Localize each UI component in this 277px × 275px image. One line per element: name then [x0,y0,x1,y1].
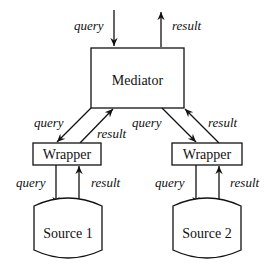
mediator-node: Mediator [91,48,184,108]
edge-w2-med-result: result [185,109,238,143]
edge-out-result: result [161,12,202,47]
edge-w1-med-result: result [80,109,127,143]
node-label: Mediator [112,73,164,88]
edge-label: query [132,115,162,130]
edge-label: result [97,126,127,141]
edge-label: result [230,175,260,190]
source-1-node: Source 1 [34,198,102,258]
node-label: Source 1 [43,226,92,241]
source-2-node: Source 2 [173,198,241,258]
edge-label: query [155,175,185,190]
wrapper-2-node: Wrapper [172,143,242,165]
mediator-architecture-diagram: query result Mediator query result query… [0,0,277,275]
edge-label: result [208,115,238,130]
node-label: Source 2 [182,226,231,241]
edge-label: result [91,175,121,190]
edge-label: query [74,18,104,33]
edge-w1-s1-query: query [16,165,56,205]
edge-in-query: query [74,10,114,46]
edge-label: result [172,18,202,33]
wrapper-1-node: Wrapper [33,143,101,165]
edge-med-w1-query: query [34,108,91,142]
edge-s1-w1-result: result [79,166,121,205]
edge-s2-w2-result: result [219,166,260,205]
edge-label: query [16,175,46,190]
node-label: Wrapper [183,147,232,162]
node-label: Wrapper [43,147,92,162]
edge-label: query [34,115,64,130]
edge-w2-s2-query: query [155,165,196,205]
edge-med-w2-query: query [132,108,196,142]
arrow-diagonal-icon [162,108,196,142]
